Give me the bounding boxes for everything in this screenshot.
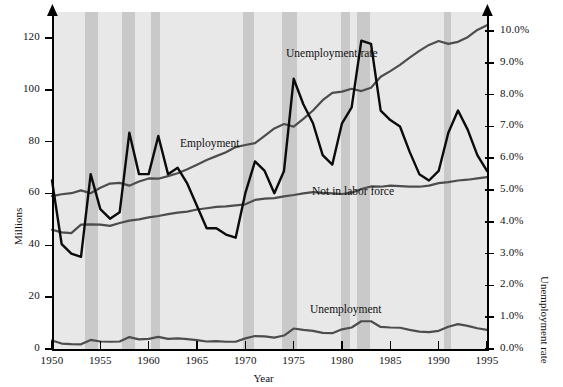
- axis-tick-label: 4.0%: [500, 214, 546, 226]
- x-axis-title: Year: [254, 372, 274, 384]
- series-unemployment: [52, 321, 487, 344]
- axis-tick-label: 1990: [415, 354, 463, 366]
- axis-tick: [485, 189, 494, 191]
- axis-tick-label: 5.0%: [500, 182, 546, 194]
- axis-tick: [45, 193, 54, 195]
- axis-tick: [245, 341, 247, 350]
- axis-tick: [485, 126, 494, 128]
- axis-tick: [485, 221, 494, 223]
- axis-tick-label: 9.0%: [500, 55, 546, 67]
- chart-figure: 020406080100120 0.0%1.0%2.0%3.0%4.0%5.0%…: [0, 0, 563, 387]
- series-not-in-labor-force: [52, 177, 487, 233]
- axis-tick: [341, 341, 343, 350]
- axis-tick: [196, 341, 198, 350]
- axis-tick: [100, 341, 102, 350]
- axis-tick-label: 3.0%: [500, 246, 546, 258]
- series-label-not-in-labor-force: Not in labor force: [312, 185, 394, 197]
- axis-tick-label: 1995: [463, 354, 511, 366]
- series-lines: [0, 0, 563, 387]
- series-label-employment: Employment: [180, 137, 239, 149]
- axis-tick: [485, 94, 494, 96]
- axis-tick-label: 60: [4, 185, 40, 197]
- axis-tick: [45, 37, 54, 39]
- axis-tick: [45, 89, 54, 91]
- axis-tick: [485, 285, 494, 287]
- axis-tick-label: 6.0%: [500, 150, 546, 162]
- axis-tick: [45, 245, 54, 247]
- axis-tick-label: 1970: [221, 354, 269, 366]
- series-employment: [52, 25, 487, 196]
- axis-tick: [390, 341, 392, 350]
- axis-tick-label: 1975: [270, 354, 318, 366]
- axis-tick: [293, 341, 295, 350]
- axis-tick: [45, 296, 54, 298]
- axis-tick-label: 1980: [318, 354, 366, 366]
- axis-tick: [485, 316, 494, 318]
- axis-tick: [438, 341, 440, 350]
- x-axis-line: [52, 349, 489, 351]
- axis-tick: [485, 62, 494, 64]
- axis-tick-label: 20: [4, 289, 40, 301]
- axis-tick: [51, 341, 53, 350]
- axis-tick-label: 1965: [173, 354, 221, 366]
- axis-tick: [485, 157, 494, 159]
- axis-tick-label: 1950: [28, 354, 76, 366]
- series-label-unemployment-rate: Unemployment rate: [286, 47, 378, 59]
- axis-tick: [485, 30, 494, 32]
- axis-tick-label: 0: [4, 341, 40, 353]
- axis-tick: [485, 253, 494, 255]
- axis-tick-label: 80: [4, 134, 40, 146]
- y-axis-title: Millions: [12, 208, 24, 245]
- axis-tick-label: 8.0%: [500, 87, 546, 99]
- y2-axis-line: [487, 8, 489, 349]
- axis-tick-label: 7.0%: [500, 118, 546, 130]
- axis-tick-label: 1955: [76, 354, 124, 366]
- axis-tick: [148, 341, 150, 350]
- axis-tick-label: 1960: [125, 354, 173, 366]
- axis-tick-label: 1985: [366, 354, 414, 366]
- axis-tick-label: 10.0%: [500, 23, 546, 35]
- y2-axis-title: Unemployment rate: [539, 276, 551, 364]
- axis-tick: [45, 141, 54, 143]
- series-label-unemployment: Unemployment: [310, 303, 382, 315]
- axis-tick-label: 100: [4, 82, 40, 94]
- axis-tick: [486, 341, 488, 350]
- axis-tick-label: 120: [4, 30, 40, 42]
